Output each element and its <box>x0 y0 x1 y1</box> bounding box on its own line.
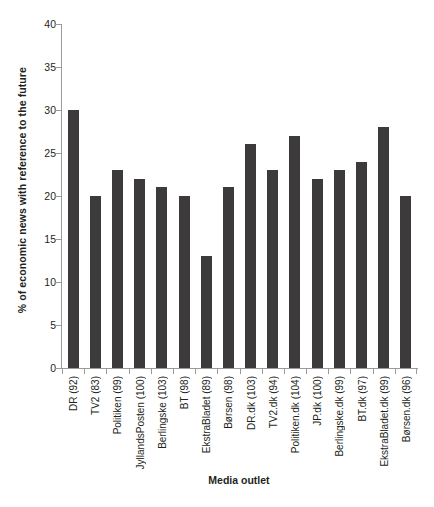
x-axis-category-label-text: EkstraBladet (89) <box>201 376 212 453</box>
x-axis-category-label-text: DR.dk (103) <box>245 376 256 430</box>
y-axis-tick-mark <box>55 153 61 154</box>
x-axis-category-label-text: Berlingske.dk (99) <box>334 376 345 457</box>
x-axis-category-label: BT.dk (97) <box>356 376 367 422</box>
x-axis-label-slot: Børsen (98) <box>217 376 239 472</box>
x-axis-tick-mark <box>395 368 417 374</box>
y-axis-tick-mark <box>55 239 61 240</box>
bar <box>289 136 300 368</box>
bar <box>156 187 167 368</box>
x-axis-tick-mark <box>151 368 173 374</box>
x-axis-category-label: TV2 (83) <box>90 376 101 415</box>
x-axis-tick-mark <box>240 368 262 374</box>
y-axis-title-text: % of economic news with reference to the… <box>16 67 28 313</box>
bar-slot <box>350 24 372 368</box>
x-axis-label-slot: DR.dk (103) <box>240 376 262 472</box>
y-axis-tick-mark <box>55 368 61 369</box>
y-axis-tick-mark <box>55 110 61 111</box>
bar <box>90 196 101 368</box>
x-axis-category-label-text: TV2 (83) <box>90 376 101 415</box>
bar-slot <box>173 24 195 368</box>
x-axis-category-label: Politiken (99) <box>112 376 123 434</box>
x-axis-category-label-text: BT (98) <box>179 376 190 409</box>
bar <box>400 196 411 368</box>
x-axis-category-label: EkstraBladet.dk (99) <box>378 376 389 467</box>
x-axis-tick-mark <box>350 368 372 374</box>
bar <box>223 187 234 368</box>
y-axis-tick-mark <box>55 24 61 25</box>
x-axis-label-slot: Politiken (99) <box>106 376 128 472</box>
x-axis-label-slot: Børsen.dk (96) <box>395 376 417 472</box>
x-axis-category-label-text: Politiken.dk (104) <box>289 376 300 453</box>
bar <box>179 196 190 368</box>
x-axis-label-slot: JyllandsPosten (100) <box>129 376 151 472</box>
x-axis-label-slot: TV2.dk (94) <box>262 376 284 472</box>
x-axis-category-label-text: BT.dk (97) <box>356 376 367 422</box>
x-axis-tick-mark <box>217 368 239 374</box>
x-axis-category-label: Børsen.dk (96) <box>400 376 411 442</box>
x-axis-category-label-text: DR (92) <box>68 376 79 411</box>
bar-slot <box>106 24 128 368</box>
x-axis-category-labels: DR (92)TV2 (83)Politiken (99)JyllandsPos… <box>62 376 417 472</box>
x-axis-category-label: Politiken.dk (104) <box>289 376 300 453</box>
x-axis-title: Media outlet <box>61 474 417 486</box>
bar <box>134 179 145 368</box>
y-axis-tick-mark <box>55 325 61 326</box>
bar <box>112 170 123 368</box>
bar-series <box>62 24 417 368</box>
x-axis-category-label-text: JP.dk (100) <box>312 376 323 426</box>
x-axis-tick-mark <box>129 368 151 374</box>
x-axis-category-label-text: JyllandsPosten (100) <box>134 376 145 469</box>
bar-slot <box>306 24 328 368</box>
x-axis-tick-mark <box>84 368 106 374</box>
x-axis-category-label: TV2.dk (94) <box>267 376 278 428</box>
x-axis-tick-mark <box>106 368 128 374</box>
x-axis-tick-mark <box>195 368 217 374</box>
x-axis-category-label: BT (98) <box>179 376 190 409</box>
y-axis-tick-mark <box>55 282 61 283</box>
x-axis-category-label-text: EkstraBladet.dk (99) <box>378 376 389 467</box>
x-axis-label-slot: DR (92) <box>62 376 84 472</box>
x-axis-category-label-text: TV2.dk (94) <box>267 376 278 428</box>
x-axis-tick-mark <box>62 368 84 374</box>
bar <box>356 162 367 368</box>
bar <box>201 256 212 368</box>
bar-slot <box>284 24 306 368</box>
bar <box>312 179 323 368</box>
x-axis-tick-mark <box>262 368 284 374</box>
x-axis-tick-mark <box>306 368 328 374</box>
x-axis-label-slot: TV2 (83) <box>84 376 106 472</box>
x-axis-tick-mark <box>328 368 350 374</box>
x-axis-label-slot: Berlingske.dk (99) <box>328 376 350 472</box>
bar-slot <box>129 24 151 368</box>
y-axis-tick-mark <box>55 67 61 68</box>
x-axis-label-slot: EkstraBladet.dk (99) <box>373 376 395 472</box>
x-axis-category-label-text: Børsen.dk (96) <box>400 376 411 442</box>
x-axis-label-slot: Politiken.dk (104) <box>284 376 306 472</box>
bar-slot <box>373 24 395 368</box>
x-axis-tick-mark <box>373 368 395 374</box>
bar-chart: % of economic news with reference to the… <box>0 0 434 507</box>
bar-slot <box>262 24 284 368</box>
bar-slot <box>195 24 217 368</box>
x-axis-tick-mark <box>173 368 195 374</box>
x-axis-label-slot: JP.dk (100) <box>306 376 328 472</box>
bar <box>267 170 278 368</box>
x-axis-label-slot: Berlingske (103) <box>151 376 173 472</box>
bar-slot <box>217 24 239 368</box>
y-axis-tick-mark <box>55 196 61 197</box>
bar-slot <box>62 24 84 368</box>
bar-slot <box>151 24 173 368</box>
bar <box>378 127 389 368</box>
x-axis-category-label: Berlingske.dk (99) <box>334 376 345 457</box>
x-axis-category-label: DR.dk (103) <box>245 376 256 430</box>
bar-slot <box>84 24 106 368</box>
x-axis-category-label: JyllandsPosten (100) <box>134 376 145 469</box>
y-axis-tick-labels: 0510152025303540 <box>30 24 56 368</box>
x-axis-category-label: Børsen (98) <box>223 376 234 429</box>
bar-slot <box>240 24 262 368</box>
x-axis-label-slot: EkstraBladet (89) <box>195 376 217 472</box>
x-axis-label-slot: BT.dk (97) <box>350 376 372 472</box>
bar <box>68 110 79 368</box>
x-axis-category-label: JP.dk (100) <box>312 376 323 426</box>
bar-slot <box>328 24 350 368</box>
